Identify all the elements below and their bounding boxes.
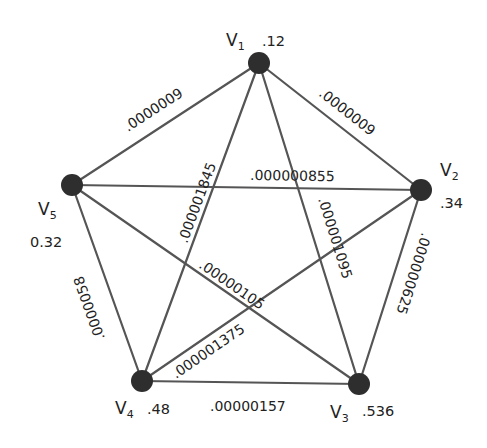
- edge-v1-v5: [72, 63, 259, 185]
- node-v4[interactable]: [131, 370, 153, 392]
- edge-label-v4-v3: .00000157: [210, 398, 286, 414]
- edge-label-v5-v4: .0000058: [70, 274, 108, 342]
- node-weight-v1: .12: [262, 33, 285, 49]
- node-label-v5: V5: [38, 199, 57, 222]
- graph-diagram: .0000009 .0000009 .000001845 .000001095 …: [0, 0, 487, 448]
- node-label-v4: V4: [115, 398, 134, 421]
- edge-v5-v2: [72, 185, 421, 190]
- edges: [72, 63, 421, 384]
- edge-label-v2-v3: .000000625: [393, 231, 434, 316]
- node-v1[interactable]: [248, 52, 270, 74]
- nodes: [61, 52, 432, 395]
- node-v2[interactable]: [410, 179, 432, 201]
- node-labels: V1 .12 V2 .34 V3 .536 V4 .48 V5 0.32: [30, 30, 463, 425]
- node-weight-v2: .34: [440, 195, 463, 211]
- node-weight-v4: .48: [147, 401, 170, 417]
- node-v3[interactable]: [348, 373, 370, 395]
- edge-v4-v3: [142, 381, 359, 384]
- edge-label-v1-v2: .0000009: [316, 85, 378, 139]
- node-label-v1: V1: [226, 30, 245, 53]
- edge-label-v5-v3: .00000105: [196, 256, 267, 312]
- edge-label-v5-v2: .000000855: [250, 167, 335, 184]
- edge-label-v1-v5: .0000009: [121, 85, 186, 135]
- node-label-v2: V2: [440, 160, 459, 183]
- edge-labels: .0000009 .0000009 .000001845 .000001095 …: [70, 85, 434, 414]
- node-weight-v5: 0.32: [30, 234, 62, 250]
- edge-label-v2-v4: .000001375: [169, 320, 248, 381]
- node-label-v3: V3: [330, 402, 349, 425]
- node-v5[interactable]: [61, 174, 83, 196]
- node-weight-v3: .536: [362, 403, 394, 419]
